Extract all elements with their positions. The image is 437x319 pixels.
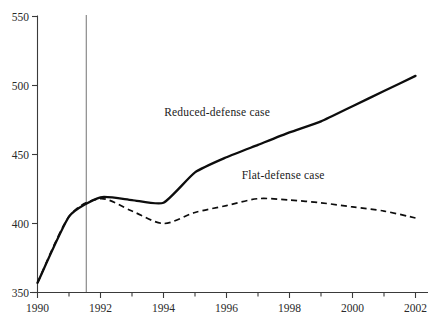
y-tick-label-550: 550 [12, 11, 30, 23]
x-axis-ticks [38, 293, 416, 299]
x-tick-label-2002: 2002 [404, 302, 427, 314]
x-tick-label-2000: 2000 [341, 302, 364, 314]
chart-canvas: 550 500 450 400 350 1990 1992 1994 [0, 0, 437, 319]
y-axis-ticks [32, 17, 38, 293]
x-tick-label-1998: 1998 [278, 302, 301, 314]
series-label-reduced-defense: Reduced-defense case [164, 106, 270, 118]
y-tick-label-350: 350 [12, 287, 30, 299]
x-axis-tick-labels: 1990 1992 1994 1996 1998 2000 2002 [26, 302, 427, 314]
x-tick-label-1992: 1992 [89, 302, 112, 314]
y-tick-label-500: 500 [12, 80, 30, 92]
series-label-flat-defense: Flat-defense case [242, 169, 325, 181]
x-tick-label-1994: 1994 [152, 302, 175, 314]
x-tick-label-1996: 1996 [215, 302, 238, 314]
line-chart-figure: 550 500 450 400 350 1990 1992 1994 [0, 0, 437, 319]
y-tick-label-450: 450 [12, 149, 30, 161]
x-tick-label-1990: 1990 [26, 302, 49, 314]
series-line-flat-defense [38, 198, 416, 282]
y-axis-tick-labels: 550 500 450 400 350 [12, 11, 30, 299]
y-tick-label-400: 400 [12, 218, 30, 230]
